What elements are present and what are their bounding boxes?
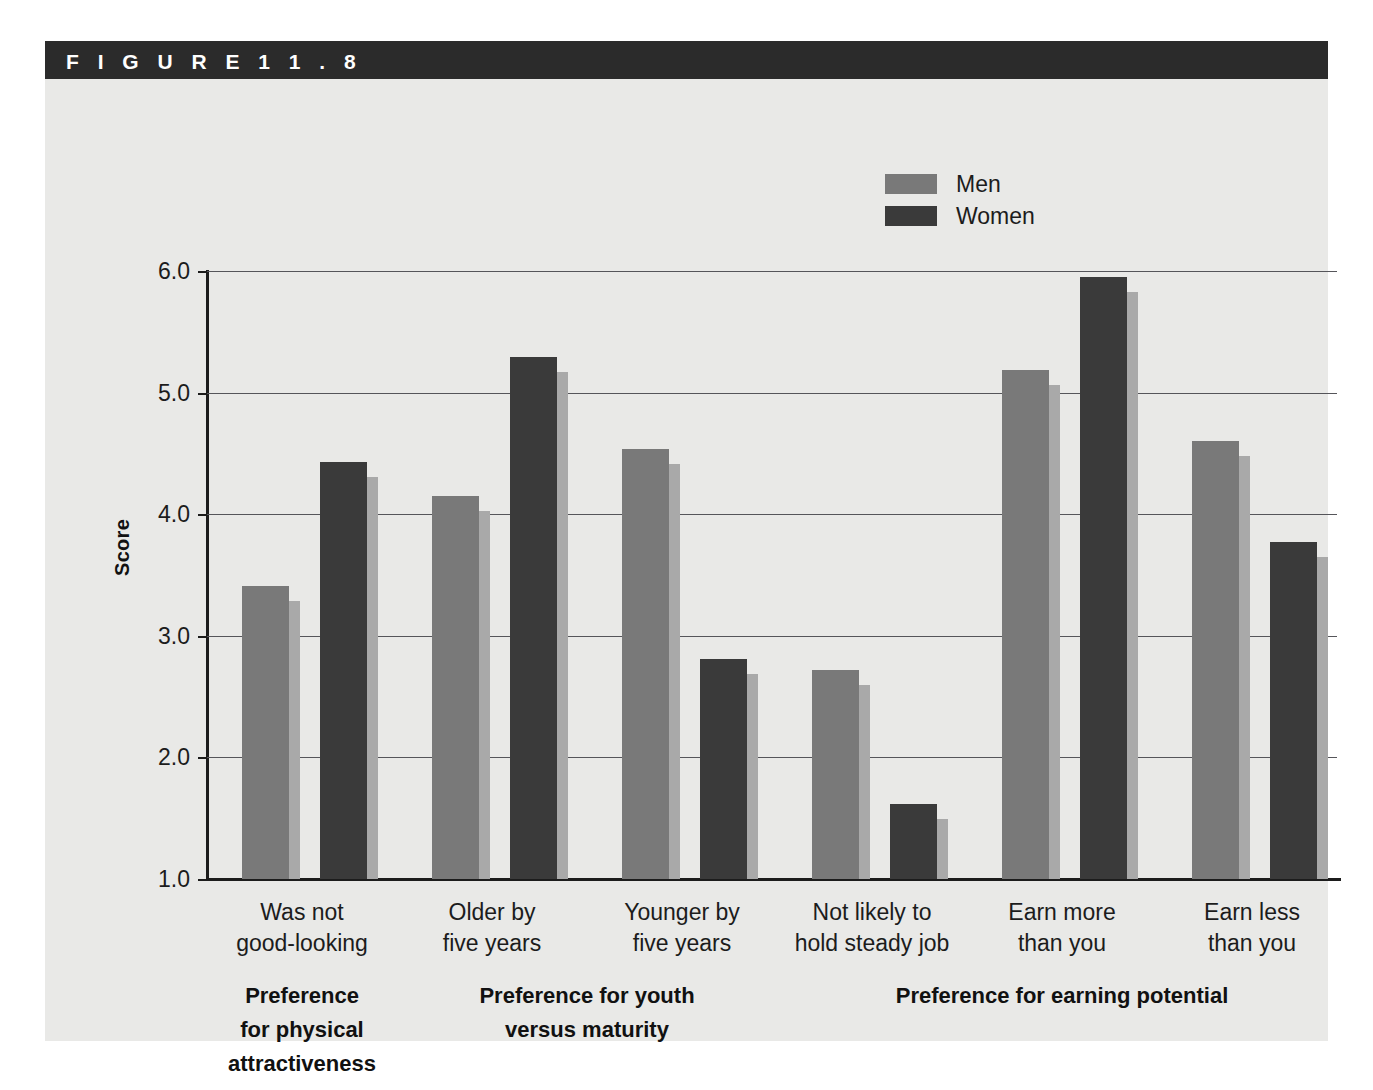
bar-face	[890, 804, 937, 879]
bar-shadow	[1049, 385, 1060, 880]
bar-face	[812, 670, 859, 879]
x-axis-category-label-0: Was not good-looking	[207, 897, 397, 959]
legend-swatch-women-icon	[885, 206, 937, 226]
bar-shadow	[937, 819, 948, 879]
bar-shadow	[1317, 557, 1328, 879]
bar-face	[320, 462, 367, 879]
group-header-1: Preference for youth versus maturity	[397, 979, 777, 1047]
bar-women-1	[510, 357, 557, 879]
figure-number-label: F I G U R E 1 1 . 8	[66, 50, 362, 74]
bar-women-3	[890, 804, 937, 879]
bar-shadow	[1127, 292, 1138, 879]
bar-shadow	[1239, 456, 1250, 879]
figure-container: F I G U R E 1 1 . 8 Men Women Score 1.02…	[45, 41, 1328, 1041]
bar-men-3	[812, 670, 859, 879]
y-axis-tick	[198, 636, 207, 638]
bar-face	[1192, 441, 1239, 879]
y-axis-tick-label: 6.0	[158, 258, 190, 285]
chart-legend: Men Women	[885, 168, 1035, 232]
x-axis-category-label-2: Younger by five years	[587, 897, 777, 959]
group-header-2: Preference for earning potential	[777, 979, 1347, 1013]
bar-face	[1270, 542, 1317, 879]
y-axis-tick-label: 4.0	[158, 501, 190, 528]
bar-women-2	[700, 659, 747, 879]
bar-shadow	[479, 511, 490, 879]
bar-shadow	[289, 601, 300, 879]
legend-swatch-men-icon	[885, 174, 937, 194]
bar-face	[1080, 277, 1127, 879]
bar-women-0	[320, 462, 367, 879]
y-axis-tick-label: 2.0	[158, 744, 190, 771]
x-axis-category-label-5: Earn less than you	[1157, 897, 1347, 959]
bar-face	[242, 586, 289, 879]
gridline	[207, 271, 1337, 272]
y-axis-tick-label: 5.0	[158, 379, 190, 406]
y-axis-tick	[198, 393, 207, 395]
bar-shadow	[669, 464, 680, 879]
y-axis-tick-label: 3.0	[158, 622, 190, 649]
bar-shadow	[367, 477, 378, 879]
bar-men-0	[242, 586, 289, 879]
y-axis-tick	[198, 271, 207, 273]
bar-men-4	[1002, 370, 1049, 880]
legend-label-men: Men	[956, 171, 1001, 198]
bar-shadow	[859, 685, 870, 879]
group-header-0: Preference for physical attractiveness	[207, 979, 397, 1081]
y-axis-tick-label: 1.0	[158, 866, 190, 893]
plot-area: 1.02.03.04.05.06.0	[207, 271, 1347, 879]
figure-title-bar: F I G U R E 1 1 . 8	[45, 41, 1328, 79]
y-axis-line	[206, 270, 209, 880]
bar-face	[432, 496, 479, 879]
x-axis-category-label-4: Earn more than you	[967, 897, 1157, 959]
y-axis-title: Score	[111, 519, 134, 576]
bar-face	[510, 357, 557, 879]
bar-men-5	[1192, 441, 1239, 879]
bar-women-4	[1080, 277, 1127, 879]
y-axis-tick	[198, 757, 207, 759]
bar-face	[622, 449, 669, 879]
legend-item-women: Women	[885, 200, 1035, 232]
legend-item-men: Men	[885, 168, 1035, 200]
bar-women-5	[1270, 542, 1317, 879]
x-axis-category-label-1: Older by five years	[397, 897, 587, 959]
bar-shadow	[747, 674, 758, 879]
y-axis-tick	[198, 514, 207, 516]
bar-men-1	[432, 496, 479, 879]
bar-men-2	[622, 449, 669, 879]
bar-face	[1002, 370, 1049, 880]
bar-shadow	[557, 372, 568, 879]
gridline	[207, 393, 1337, 394]
legend-label-women: Women	[956, 203, 1035, 230]
chart-panel: Men Women Score 1.02.03.04.05.06.0 Was n…	[45, 79, 1328, 1041]
x-axis-category-label-3: Not likely to hold steady job	[777, 897, 967, 959]
y-axis-tick	[198, 879, 207, 881]
bar-face	[700, 659, 747, 879]
